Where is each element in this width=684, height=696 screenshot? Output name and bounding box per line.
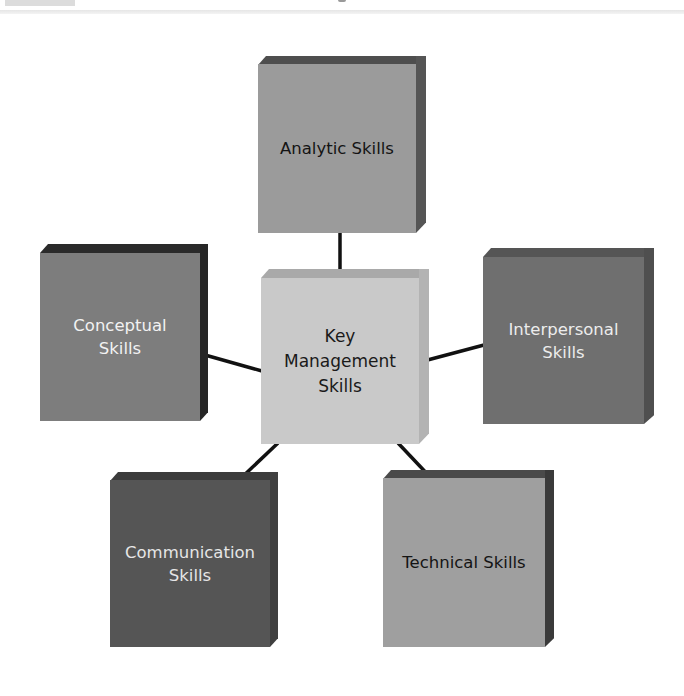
node-technical-skills: Technical Skills [383, 470, 554, 647]
node-top-face [261, 269, 429, 278]
node-top-face [483, 248, 654, 257]
node-conceptual-skills: Conceptual Skills [40, 244, 208, 421]
node-front-face: Conceptual Skills [40, 253, 200, 421]
node-side-face [270, 472, 278, 647]
node-front-face: Key Management Skills [261, 278, 419, 444]
node-label: Communication [125, 541, 255, 564]
connector-conceptual [205, 355, 262, 371]
node-top-face [40, 244, 208, 253]
node-analytic-skills: Analytic Skills [258, 56, 426, 233]
node-label: Skills [509, 341, 619, 364]
node-label: Technical Skills [402, 551, 525, 574]
node-side-face [416, 56, 426, 233]
connector-interpersonal [420, 345, 484, 362]
node-side-face [644, 248, 654, 424]
node-side-face [545, 470, 554, 647]
node-front-face: Analytic Skills [258, 64, 416, 233]
node-front-face: Interpersonal Skills [483, 257, 644, 424]
node-side-face [419, 269, 429, 444]
node-label: Analytic Skills [280, 137, 394, 160]
node-label: Skills [73, 337, 166, 360]
node-label: Interpersonal [509, 318, 619, 341]
node-label: Skills [284, 374, 396, 399]
node-label: Key [284, 324, 396, 349]
node-front-face: Communication Skills [110, 480, 270, 647]
node-label: Management [284, 349, 396, 374]
node-key-management-skills: Key Management Skills [261, 269, 429, 444]
node-communication-skills: Communication Skills [110, 472, 278, 647]
node-side-face [200, 244, 208, 421]
node-label: Skills [125, 564, 255, 587]
node-front-face: Technical Skills [383, 478, 545, 647]
node-label: Conceptual [73, 314, 166, 337]
node-interpersonal-skills: Interpersonal Skills [483, 248, 654, 424]
